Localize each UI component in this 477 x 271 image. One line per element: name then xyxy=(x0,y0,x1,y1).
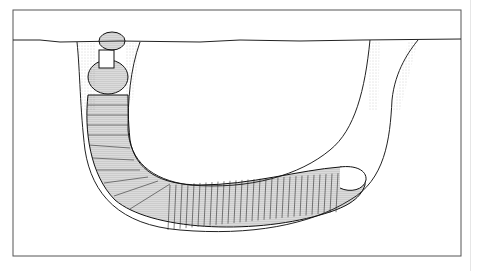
illustration xyxy=(0,0,477,271)
worm-proboscis-tip xyxy=(99,32,125,50)
worm-body xyxy=(87,95,365,227)
worm-tail-tip xyxy=(340,167,366,191)
burrow-inner-wall xyxy=(128,40,370,186)
worm-neck xyxy=(99,50,114,68)
ground-line xyxy=(13,39,461,42)
